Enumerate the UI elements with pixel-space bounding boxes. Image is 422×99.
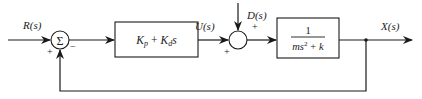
sum-circle-2 xyxy=(229,31,247,49)
sum2-control-plus: + xyxy=(224,46,230,57)
plant-box xyxy=(277,18,339,58)
block-diagram: R(s) Σ + − Kp+Kds U(s) D(s) + + 1 ms2+ k xyxy=(0,0,422,99)
sum2-disturbance-plus: + xyxy=(252,21,258,32)
sum1-plus-sign: + xyxy=(47,46,53,57)
control-signal: U(s) xyxy=(195,20,228,40)
sum1-minus-sign: − xyxy=(70,41,76,52)
input-label: R(s) xyxy=(22,19,42,32)
controller-block: Kp+Kds xyxy=(115,22,198,57)
summing-junction-1: Σ + − xyxy=(47,31,76,57)
disturbance-signal: D(s) + xyxy=(238,3,267,32)
output-label: X(s) xyxy=(380,20,400,33)
plant-numerator: 1 xyxy=(305,25,310,36)
output-signal: X(s) xyxy=(339,20,412,42)
input-signal: R(s) xyxy=(8,19,50,40)
plant-block: 1 ms2+ k xyxy=(277,18,339,58)
control-label: U(s) xyxy=(195,20,215,33)
sigma-symbol: Σ xyxy=(57,34,64,48)
summing-junction-2: + xyxy=(224,31,247,57)
